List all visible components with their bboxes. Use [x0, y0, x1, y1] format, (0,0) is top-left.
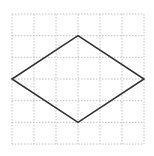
- grid-diagram: [0, 0, 154, 156]
- dotted-grid: [12, 14, 144, 144]
